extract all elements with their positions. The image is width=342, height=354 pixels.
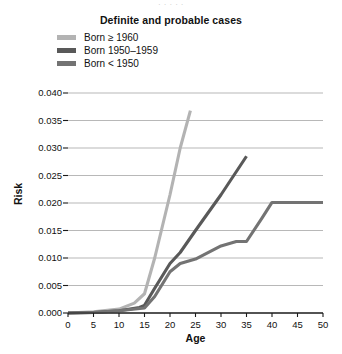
figure-root: · · · · · Definite and probable cases Bo… <box>0 0 342 354</box>
x-axis-tick-label: 50 <box>308 319 338 330</box>
x-axis-tick-labels: 05101520253035404550 <box>0 0 342 354</box>
plot-area: 0.0000.0050.0100.0150.0200.0250.0300.035… <box>0 0 342 354</box>
y-axis-title: Risk <box>12 164 24 224</box>
x-axis-title: Age <box>68 332 323 344</box>
